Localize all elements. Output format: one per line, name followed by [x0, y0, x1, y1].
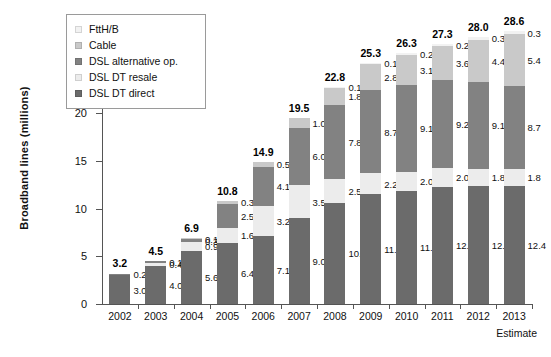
bar-segment[interactable] — [504, 86, 525, 169]
bar-stack[interactable] — [396, 53, 417, 304]
bar-stack[interactable] — [360, 63, 381, 304]
x-axis-category-label: 2002 — [108, 310, 131, 322]
bar-total-label: 6.9 — [184, 222, 199, 234]
bar-segment[interactable] — [396, 191, 417, 304]
y-axis-tick: 20 — [96, 113, 102, 114]
bar-total-label: 19.5 — [289, 102, 309, 114]
bar-segment[interactable] — [468, 82, 489, 169]
y-axis-tick: 5 — [96, 256, 102, 257]
bar-segment[interactable] — [253, 236, 274, 304]
bar-segment[interactable] — [217, 228, 238, 243]
x-axis-category-label: 2004 — [180, 310, 203, 322]
legend-item-label: Cable — [89, 39, 116, 51]
x-axis-tick — [281, 304, 282, 309]
bar-segment[interactable] — [181, 251, 202, 304]
x-axis-tick — [174, 304, 175, 309]
legend-swatch-icon — [75, 58, 82, 65]
bar-segment[interactable] — [217, 243, 238, 304]
bar-segment[interactable] — [109, 275, 130, 304]
bar-segment[interactable] — [324, 203, 345, 304]
x-axis-tick — [317, 304, 318, 309]
x-axis-tick — [353, 304, 354, 309]
bar-segment[interactable] — [396, 172, 417, 191]
bar-segment[interactable] — [253, 167, 274, 206]
bar-stack[interactable] — [253, 162, 274, 304]
y-axis-tick-label: 15 — [75, 155, 87, 167]
x-axis-category-label: 2008 — [323, 310, 346, 322]
bar-segment[interactable] — [324, 88, 345, 105]
x-axis-tick — [210, 304, 211, 309]
bar-segment[interactable] — [432, 187, 453, 304]
bar-segment[interactable] — [432, 168, 453, 187]
bar-segment-value-label: 8.7 — [528, 122, 541, 133]
x-axis-category-label: 2010 — [395, 310, 418, 322]
legend-item-label: FttH/B — [89, 23, 119, 35]
bar-segment[interactable] — [432, 80, 453, 168]
bar-stack[interactable] — [109, 274, 130, 305]
x-axis-tick — [138, 304, 139, 309]
bar-segment-value-label: 5.4 — [528, 54, 541, 65]
bar-stack[interactable] — [324, 87, 345, 304]
y-axis-tick: 15 — [96, 161, 102, 162]
legend-swatch-icon — [75, 26, 82, 33]
x-axis-tick — [245, 304, 246, 309]
bar-segment[interactable] — [468, 169, 489, 186]
bar-segment[interactable] — [396, 85, 417, 172]
bar-segment[interactable] — [324, 105, 345, 179]
bar-stack[interactable] — [289, 118, 310, 304]
legend-item: DSL DT resale — [75, 69, 197, 85]
legend-item: FttH/B — [75, 21, 197, 37]
bar-segment[interactable] — [217, 204, 238, 228]
x-axis-category-label: 2012 — [467, 310, 490, 322]
bar-segment[interactable] — [360, 90, 381, 173]
bar-total-label: 26.3 — [396, 37, 416, 49]
bar-segment[interactable] — [360, 64, 381, 91]
bar-segment[interactable] — [360, 194, 381, 304]
bar-stack[interactable] — [432, 44, 453, 304]
bar-segment[interactable] — [181, 242, 202, 251]
bar-total-label: 3.2 — [113, 257, 128, 269]
x-axis-tick — [532, 304, 533, 309]
bar-segment[interactable] — [289, 185, 310, 218]
bar-stack[interactable] — [181, 238, 202, 304]
x-axis-tick — [496, 304, 497, 309]
bar-total-label: 25.3 — [361, 47, 381, 59]
bar-segment[interactable] — [289, 128, 310, 185]
legend-swatch-icon — [75, 74, 82, 81]
y-axis-tick: 10 — [96, 209, 102, 210]
bar-segment[interactable] — [360, 173, 381, 194]
legend-item-label: DSL DT direct — [89, 87, 154, 99]
bar-segment[interactable] — [468, 40, 489, 82]
bar-segment[interactable] — [145, 266, 166, 304]
x-axis-category-label: 2013 — [502, 310, 525, 322]
x-axis-category-label: 2009 — [359, 310, 382, 322]
bar-segment[interactable] — [253, 206, 274, 237]
broadband-lines-stacked-bar-chart: Broadband lines (millions) 0510152025303… — [0, 0, 551, 357]
bar-segment[interactable] — [468, 186, 489, 304]
bar-total-label: 27.3 — [432, 28, 452, 40]
legend-item: Cable — [75, 37, 197, 53]
bar-stack[interactable] — [217, 201, 238, 304]
bar-segment[interactable] — [504, 186, 525, 304]
legend-item: DSL alternative op. — [75, 53, 197, 69]
bar-total-label: 4.5 — [148, 245, 163, 257]
bar-segment[interactable] — [289, 218, 310, 304]
bar-segment-value-label: 12.4 — [528, 239, 547, 250]
bar-total-label: 22.8 — [325, 71, 345, 83]
y-axis-title: Broadband lines (millions) — [18, 38, 30, 278]
bar-segment-value-label: 1.8 — [528, 172, 541, 183]
bar-segment[interactable] — [324, 179, 345, 203]
legend-item-label: DSL DT resale — [89, 71, 157, 83]
chart-legend: FttH/BCableDSL alternative op.DSL DT res… — [66, 14, 206, 109]
bar-stack[interactable] — [504, 31, 525, 304]
bar-segment[interactable] — [504, 169, 525, 186]
bar-segment[interactable] — [432, 46, 453, 80]
bar-segment[interactable] — [504, 34, 525, 85]
y-axis-tick-label: 20 — [75, 107, 87, 119]
bar-segment[interactable] — [289, 118, 310, 128]
bar-segment[interactable] — [396, 55, 417, 85]
bar-stack[interactable] — [145, 261, 166, 304]
x-axis-category-label: 2003 — [144, 310, 167, 322]
bar-stack[interactable] — [468, 37, 489, 304]
x-axis-category-label: 2005 — [216, 310, 239, 322]
